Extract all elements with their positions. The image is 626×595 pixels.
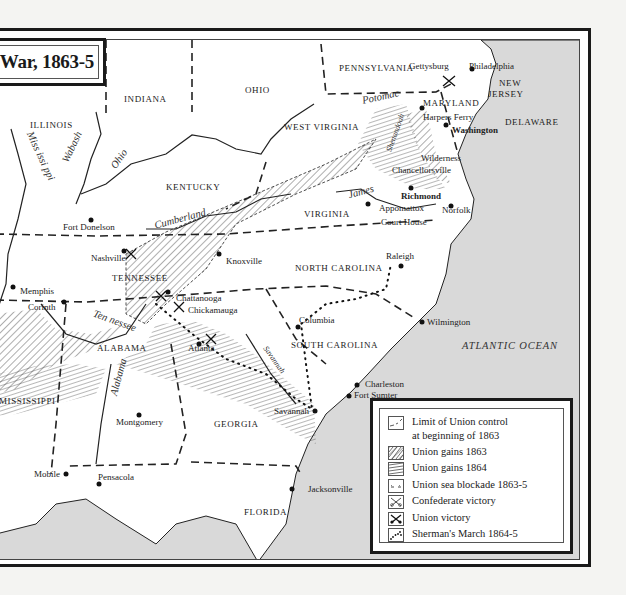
city-label: Wilmington <box>427 318 470 327</box>
title-box: War, 1863-5 <box>0 38 106 86</box>
legend-label-line1: Limit of Union control <box>412 415 508 429</box>
legend-item: Union gains 1864 <box>388 461 557 476</box>
city-label: Atlanta <box>188 344 215 353</box>
city-label: Chattanooga <box>176 294 222 303</box>
state-label: VIRGINIA <box>304 210 350 219</box>
state-label: ALABAMA <box>97 344 147 353</box>
union-victory-icon <box>388 512 404 526</box>
legend-item: Limit of Union control at beginning of 1… <box>388 415 557 443</box>
title-inner-frame: War, 1863-5 <box>0 45 99 79</box>
legend-label: Confederate victory <box>412 494 496 508</box>
state-label: KENTUCKY <box>166 183 220 192</box>
city-label: Mobile <box>34 470 60 479</box>
city-label: Corinth <box>28 303 56 312</box>
state-label: SOUTH CAROLINA <box>291 341 378 350</box>
legend-label: Union gains 1863 <box>412 445 487 459</box>
state-label: OHIO <box>245 86 270 95</box>
legend-item: Sherman's March 1864-5 <box>388 527 557 542</box>
legend-label: Union victory <box>412 511 471 525</box>
map-title: War, 1863-5 <box>0 51 94 73</box>
legend-item: Union gains 1863 <box>388 445 557 460</box>
city-label: Columbia <box>299 316 335 325</box>
state-label: NEW <box>499 79 521 88</box>
state-label: TENNESSEE <box>112 274 168 283</box>
city-label: Pensacola <box>98 473 134 482</box>
state-label: FLORIDA <box>244 508 287 517</box>
legend-label: Limit of Union control at beginning of 1… <box>412 415 508 443</box>
union-gains-1863-icon <box>388 446 404 460</box>
confederate-victory-icon <box>388 495 404 509</box>
legend-item: Union victory <box>388 511 557 526</box>
city-label: Gettysburg <box>409 62 449 71</box>
legend-label: Union gains 1864 <box>412 461 487 475</box>
city-label: Philadelphia <box>469 62 514 71</box>
legend-label-line2: at beginning of 1863 <box>412 429 508 443</box>
legend-label: Union sea blockade 1863-5 <box>412 478 527 492</box>
ocean-label: ATLANTIC OCEAN <box>462 341 558 352</box>
city-label: Jacksonville <box>308 485 353 494</box>
state-label: PENNSYLVANIA <box>339 64 414 73</box>
city-label: Savannah <box>274 407 309 416</box>
union-gains-1864-icon <box>388 462 404 476</box>
state-label: DELAWARE <box>505 118 559 127</box>
state-label: INDIANA <box>124 95 167 104</box>
state-label: ILLINOIS <box>30 121 73 130</box>
legend: Limit of Union control at beginning of 1… <box>370 398 573 554</box>
city-label: Nashville <box>91 254 126 263</box>
city-label: Memphis <box>20 287 54 296</box>
shermans-march-icon <box>388 528 404 542</box>
limit-union-control-icon <box>388 416 404 430</box>
city-label: Harpers Ferry <box>423 113 473 122</box>
state-label: JERSEY <box>488 90 524 99</box>
sea-blockade-icon <box>388 479 404 493</box>
state-label: MARYLAND <box>423 99 479 108</box>
city-label: Knoxville <box>226 257 262 266</box>
city-label: Appomattox <box>379 204 424 213</box>
legend-item: Confederate victory <box>388 494 557 509</box>
state-label: WEST VIRGINIA <box>284 123 359 132</box>
state-label: MISSISSIPPI <box>0 397 56 406</box>
city-label: Wilderness <box>421 154 461 163</box>
city-label: Fort Donelson <box>63 223 115 232</box>
city-label: Montgomery <box>116 418 163 427</box>
legend-item: Union sea blockade 1863-5 <box>388 478 557 493</box>
state-label: GEORGIA <box>214 420 259 429</box>
city-label: Chancellorsville <box>392 166 451 175</box>
legend-inner: Limit of Union control at beginning of 1… <box>379 408 564 543</box>
city-label: Raleigh <box>386 252 414 261</box>
city-label: Court House <box>381 218 427 227</box>
city-label: Richmond <box>401 192 441 201</box>
city-label: Norfolk <box>442 206 471 215</box>
city-label: Charleston <box>365 380 404 389</box>
city-label: Chickamauga <box>188 306 237 315</box>
city-label: Washington <box>452 126 498 135</box>
legend-label: Sherman's March 1864-5 <box>412 527 518 541</box>
state-label: NORTH CAROLINA <box>295 264 383 273</box>
